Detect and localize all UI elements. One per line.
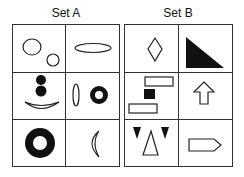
set-a-shapes [13,25,121,168]
smiley-icon [25,75,59,109]
set-a-title: Set A [16,6,116,20]
diamond-icon [148,38,162,61]
large-ring-icon [29,132,51,154]
triangles-icon [133,127,141,139]
vertical-ellipse-icon [73,84,79,106]
triangles-icon-right [161,127,169,139]
small-ring-icon [93,89,106,102]
set-b-title: Set B [128,6,228,20]
right-pentagon-arrow-icon [189,139,221,151]
horizontal-ellipse-icon [75,44,111,53]
two-circles-icon [23,39,59,66]
crescent-moon-icon [92,131,99,157]
upward-triangle-icon [143,131,158,155]
rectangles-and-square-icon [129,77,173,113]
set-b-grid [124,24,233,167]
filled-right-triangle-icon [186,37,224,68]
set-a-grid [12,24,120,167]
set-b-shapes [125,25,234,168]
up-arrow-icon [194,82,214,104]
